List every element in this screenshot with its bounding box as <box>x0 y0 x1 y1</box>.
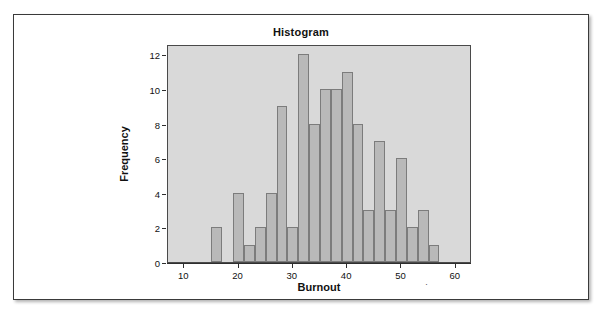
y-axis-tick <box>162 55 166 56</box>
figure-card: Histogram 024681012 102030405060 Burnout… <box>13 14 589 300</box>
histogram-bar <box>353 124 364 262</box>
histogram-bar <box>211 227 222 262</box>
histogram-bar <box>374 141 385 262</box>
histogram-bar <box>320 89 331 262</box>
histogram-bar <box>385 210 396 262</box>
x-axis-tick <box>183 263 184 268</box>
histogram-bar <box>233 193 244 262</box>
y-axis-tick <box>162 194 166 195</box>
histogram-bar <box>266 193 277 262</box>
x-axis-tick-label: 30 <box>287 270 298 281</box>
y-axis-tick <box>162 90 166 91</box>
histogram-bar <box>287 227 298 262</box>
x-axis-tick <box>455 263 456 268</box>
y-axis-tick-label: 8 <box>155 119 160 130</box>
y-axis-tick-label: 10 <box>149 84 160 95</box>
bars-layer <box>168 46 470 262</box>
histogram-bar <box>407 227 418 262</box>
y-axis-tick <box>162 263 166 264</box>
y-axis-title: Frequency <box>118 126 130 182</box>
y-axis-tick-label: 12 <box>149 50 160 61</box>
histogram-bar <box>331 89 342 262</box>
histogram-bar <box>396 158 407 262</box>
y-axis-tick <box>162 159 166 160</box>
y-axis-tick <box>162 125 166 126</box>
x-axis-tick-label: 60 <box>449 270 460 281</box>
x-axis-tick-label: 50 <box>395 270 406 281</box>
histogram-bar <box>342 72 353 262</box>
x-axis-tick-label: 10 <box>178 270 189 281</box>
x-axis-tick <box>346 263 347 268</box>
y-axis-tick-label: 0 <box>155 258 160 269</box>
histogram-bar <box>363 210 374 262</box>
histogram-bar <box>309 124 320 262</box>
y-axis-tick-label: 2 <box>155 223 160 234</box>
x-axis-tick <box>292 263 293 268</box>
x-axis-title-mark: · <box>425 279 428 289</box>
histogram-bar <box>429 245 440 262</box>
x-axis-tick <box>400 263 401 268</box>
histogram-bar <box>277 106 288 262</box>
plot-area <box>167 45 471 263</box>
x-axis-tick-label: 40 <box>341 270 352 281</box>
histogram-bar <box>244 245 255 262</box>
y-axis-tick <box>162 228 166 229</box>
histogram-bar <box>418 210 429 262</box>
y-axis-tick-label: 4 <box>155 188 160 199</box>
x-axis-tick-label: 20 <box>232 270 243 281</box>
x-axis-line <box>167 263 471 264</box>
screenshot-root: Histogram 024681012 102030405060 Burnout… <box>0 0 606 317</box>
histogram-bar <box>255 227 266 262</box>
chart-title: Histogram <box>14 26 588 38</box>
x-axis-tick <box>238 263 239 268</box>
y-axis-tick-label: 6 <box>155 154 160 165</box>
histogram-bar <box>298 54 309 262</box>
